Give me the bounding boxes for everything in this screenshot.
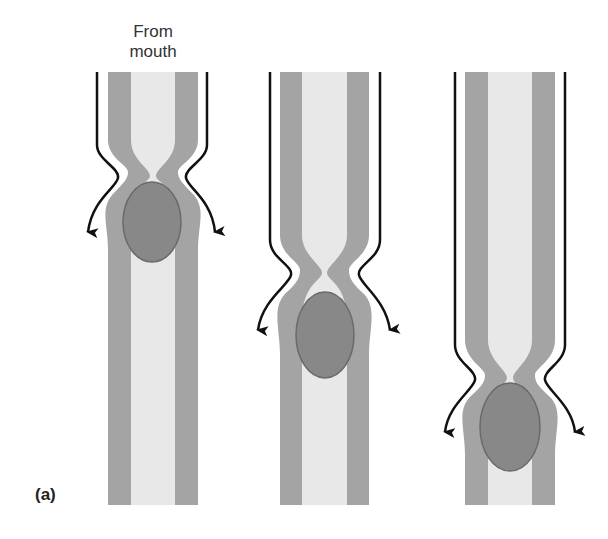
peristalsis-diagram xyxy=(0,0,608,539)
esophagus-stage-1 xyxy=(88,72,215,505)
bolus xyxy=(296,292,354,378)
esophagus-stage-2 xyxy=(258,72,390,505)
bolus xyxy=(123,182,181,262)
bolus xyxy=(480,383,540,471)
esophagus-stage-3 xyxy=(445,72,575,505)
